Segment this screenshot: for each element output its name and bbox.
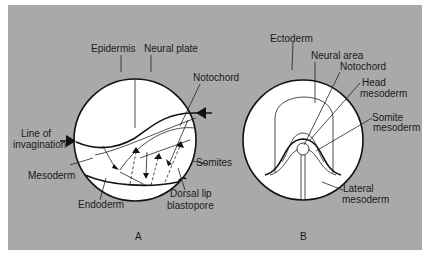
label-mesoderm: Mesoderm bbox=[28, 170, 75, 181]
caption-a: A bbox=[135, 231, 142, 242]
label-neural-plate: Neural plate bbox=[144, 43, 198, 54]
panel-a: Epidermis Neural plate Notochord Line of… bbox=[13, 43, 239, 242]
label-blastopore: blastopore bbox=[167, 200, 214, 211]
invagination-arrow-right-icon bbox=[196, 107, 206, 119]
label-notochord-b: Notochord bbox=[340, 61, 386, 72]
leader-ectoderm bbox=[292, 42, 293, 70]
label-notochord-a: Notochord bbox=[193, 72, 239, 83]
label-head: Head bbox=[362, 77, 386, 88]
notochord-circle bbox=[297, 143, 309, 155]
label-head-mesoderm: mesoderm bbox=[360, 88, 407, 99]
label-endoderm: Endoderm bbox=[78, 199, 124, 210]
label-invagination: invagination bbox=[13, 139, 66, 150]
label-dorsal-lip: Dorsal lip bbox=[170, 188, 212, 199]
label-somite-mesoderm: mesoderm bbox=[373, 122, 420, 133]
caption-b: B bbox=[300, 231, 307, 242]
label-ectoderm: Ectoderm bbox=[270, 33, 313, 44]
label-somites: Somites bbox=[196, 157, 232, 168]
label-lateral: Lateral bbox=[343, 183, 374, 194]
label-neural-area: Neural area bbox=[311, 50, 364, 61]
label-epidermis: Epidermis bbox=[91, 43, 135, 54]
panel-b: Ectoderm Neural area Notochord Head meso… bbox=[243, 33, 420, 242]
label-line-of: Line of bbox=[21, 128, 51, 139]
embryo-fate-map-diagram: Epidermis Neural plate Notochord Line of… bbox=[0, 0, 430, 256]
embryo-b-outline bbox=[243, 80, 363, 200]
label-lateral-mesoderm: mesoderm bbox=[342, 194, 389, 205]
